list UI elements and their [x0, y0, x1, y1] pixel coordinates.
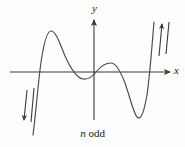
x-axis-label: x: [174, 65, 179, 76]
figure-caption: n odd: [0, 128, 185, 139]
down-arrow-outer: [31, 88, 34, 122]
down-arrows: [24, 88, 34, 122]
y-axis-label: y: [92, 3, 97, 14]
down-arrow-inner: [24, 90, 27, 120]
caption-text: odd: [88, 127, 105, 139]
polynomial-graph-figure: y x n odd: [0, 0, 185, 147]
up-arrows: [159, 22, 169, 56]
up-arrow-inner: [159, 24, 162, 56]
graph-canvas: [0, 0, 185, 147]
up-arrow-outer: [166, 22, 169, 54]
